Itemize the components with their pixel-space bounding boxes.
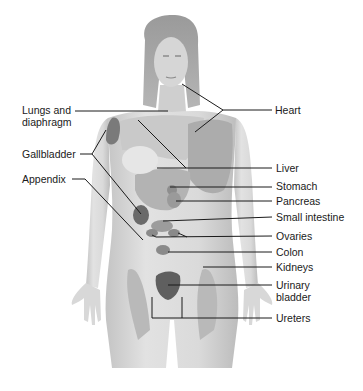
gallbladder-region bbox=[133, 205, 149, 225]
label-small-intestine: Small intestine bbox=[276, 211, 344, 223]
label-stomach: Stomach bbox=[276, 180, 317, 192]
label-ovaries: Ovaries bbox=[276, 230, 312, 242]
label-lungs-and-diaphragm: Lungs and diaphragm bbox=[22, 104, 72, 128]
label-pancreas: Pancreas bbox=[276, 195, 320, 207]
referred-pain-diagram: Lungs and diaphragm Gallbladder Appendix… bbox=[0, 0, 363, 391]
label-lungs-line2: diaphragm bbox=[22, 116, 72, 128]
label-bladder-line2: bladder bbox=[276, 291, 311, 303]
pancreas-region bbox=[167, 192, 181, 208]
right-hand bbox=[243, 283, 272, 325]
label-lungs-line1: Lungs and bbox=[22, 104, 72, 116]
label-urinary-bladder: Urinary bladder bbox=[276, 279, 311, 303]
label-bladder-line1: Urinary bbox=[276, 279, 311, 291]
label-ureters: Ureters bbox=[276, 312, 310, 324]
heart-region bbox=[188, 120, 233, 194]
label-colon: Colon bbox=[276, 246, 303, 258]
face bbox=[154, 37, 188, 87]
label-liver: Liver bbox=[276, 162, 299, 174]
left-hand bbox=[72, 283, 101, 325]
label-gallbladder: Gallbladder bbox=[22, 148, 76, 160]
colon-region bbox=[156, 245, 170, 255]
label-kidneys: Kidneys bbox=[276, 261, 313, 273]
neck bbox=[158, 85, 186, 112]
label-heart: Heart bbox=[275, 104, 301, 116]
right-arm bbox=[234, 118, 258, 288]
label-appendix: Appendix bbox=[22, 173, 66, 185]
